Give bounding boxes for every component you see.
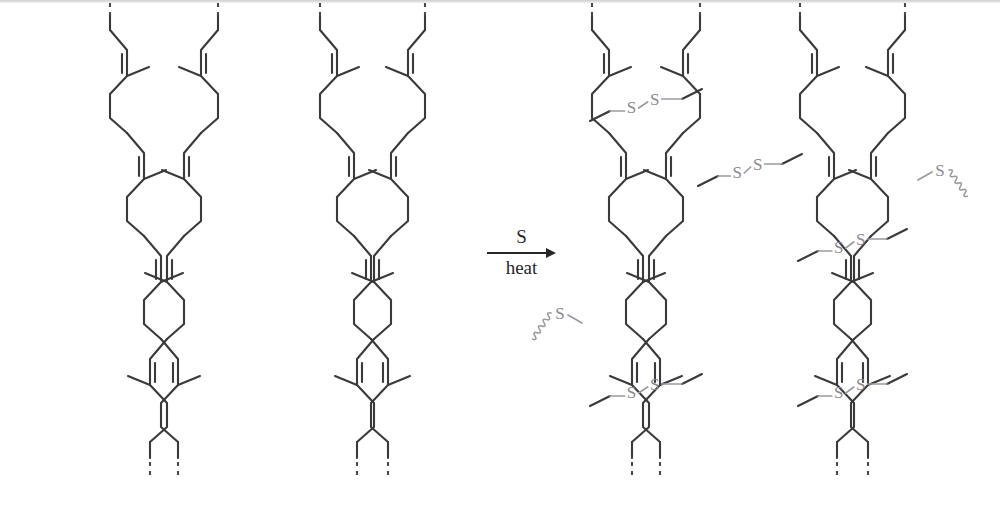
methyl-branch [782,154,802,164]
crosslink-xlink-2: SS [698,154,802,186]
polymer-backbone-segment [184,133,201,236]
methyl-branch [179,67,201,76]
disulfide-bond [639,387,648,393]
methyl-branch [866,67,888,76]
sulfur-label: S [555,304,564,323]
methyl-branch [609,67,631,76]
sulfur-label: S [856,375,865,394]
polymer-backbone-segment [150,339,167,442]
methyl-branch [128,376,150,385]
methyl-branch [590,396,610,406]
methyl-branch [817,67,839,76]
polymer-backbone-segment [320,30,337,133]
polymer-chain-1-left [110,2,200,476]
methyl-branch [386,67,408,76]
squiggly-bond-terminator [947,169,969,198]
sulfur-label: S [627,98,636,117]
polymer-backbone-segment [144,236,161,339]
sulfur-label: S [732,163,741,182]
methyl-branch [849,170,871,179]
disulfide-bond [639,102,648,108]
methyl-branch [798,251,818,261]
crosslink-xlink-1: SS [590,89,702,121]
methyl-branch [162,170,184,179]
polymer-backbone-segment [854,236,871,339]
polymer-backbone-segment [800,30,817,133]
reaction-scheme: SSSSSSSSSSSS [0,0,1000,506]
polymer-backbone-segment [592,30,609,133]
carbon-sulfur-bond [918,172,932,180]
methyl-branch [337,67,359,76]
polymer-backbone-segment [683,30,700,133]
dangling-sulfur-left: S [531,304,582,341]
polymer-backbone-segment [871,133,888,236]
methyl-branch [369,170,391,179]
sulfur-label: S [935,161,944,180]
sulfur-label: S [753,155,762,174]
methyl-branch [661,67,683,76]
polymer-backbone-segment [649,236,666,339]
polymer-backbone-segment [127,133,144,236]
sulfur-label: S [650,375,659,394]
polymer-backbone-segment [374,236,391,339]
dangling-sulfur-right: S [918,161,969,198]
sulfur-label: S [834,238,843,257]
methyl-branch [127,67,149,76]
right-panel-vulcanized: SSSSSSSSSSSS [531,2,970,476]
polymer-backbone-segment [666,133,683,236]
methyl-branch [388,376,410,385]
methyl-branch [335,376,357,385]
methyl-branch [178,376,200,385]
polymer-backbone-segment [626,236,643,339]
polymer-backbone-segment [817,133,834,236]
polymer-backbone-segment [354,236,371,339]
polymer-chain-2-right [610,2,700,476]
polymer-backbone-segment [609,133,626,236]
sulfur-label: S [856,230,865,249]
left-panel-unvulcanized [110,2,425,476]
disulfide-bond [744,167,750,173]
squiggly-bond-terminator [531,312,553,341]
methyl-branch [644,170,666,179]
polymer-chain-2-left [128,2,218,476]
polymer-backbone-segment [167,236,184,339]
disulfide-bond [846,387,854,393]
methyl-branch [698,176,718,186]
disulfide-bond [846,242,854,248]
methyl-branch [682,374,702,384]
polymer-backbone-segment [408,30,425,133]
polymer-backbone-segment [888,30,905,133]
polymer-backbone-segment [391,133,408,236]
polymer-backbone-segment [110,30,127,133]
crosslink-xlink-3: SS [798,229,907,261]
polymer-chain-4-left [335,2,425,476]
sulfur-label: S [650,90,659,109]
sulfur-label: S [627,383,636,402]
methyl-branch [798,396,818,406]
methyl-branch [887,229,907,239]
polymer-backbone-segment [201,30,218,133]
figure-canvas: SSSSSSSSSSSS Sheat [0,0,1000,506]
polymer-backbone-segment [337,133,354,236]
carbon-sulfur-bond [568,315,582,323]
sulfur-label: S [834,383,843,402]
polymer-chain-1-right [592,2,682,476]
polymer-chain-3-left [320,2,410,476]
polymer-backbone-segment [161,339,178,442]
